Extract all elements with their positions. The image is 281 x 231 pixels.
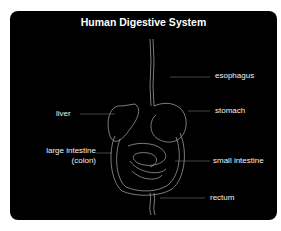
small-intestine-shape bbox=[128, 143, 166, 167]
label-large-intestine-line1: large intestine bbox=[12, 146, 96, 156]
rectum-shape bbox=[150, 193, 151, 215]
label-stomach: stomach bbox=[215, 106, 245, 116]
label-rectum: rectum bbox=[210, 193, 234, 203]
label-large-intestine-line2: (colon) bbox=[12, 156, 96, 166]
large-intestine-shape bbox=[111, 133, 184, 195]
diagram-panel: Human Digestive System bbox=[10, 11, 277, 220]
label-small-intestine: small intestine bbox=[213, 156, 264, 166]
label-liver: liver bbox=[56, 109, 71, 119]
label-esophagus: esophagus bbox=[215, 71, 254, 81]
stomach-shape bbox=[151, 103, 186, 142]
liver-shape bbox=[108, 104, 139, 141]
label-large-intestine: large intestine (colon) bbox=[12, 146, 96, 166]
esophagus-shape bbox=[150, 39, 151, 106]
